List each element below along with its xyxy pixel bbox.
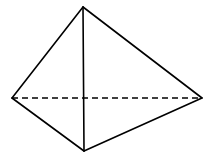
edge-top-right <box>83 7 202 98</box>
edge-top-left <box>12 7 83 98</box>
edge-right-bottom <box>84 98 202 151</box>
edge-left-bottom <box>12 98 84 151</box>
edge-top-bottom <box>83 7 84 151</box>
pyramid-diagram <box>0 0 213 152</box>
